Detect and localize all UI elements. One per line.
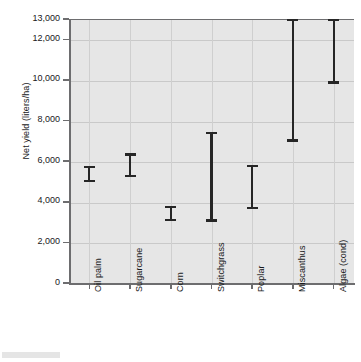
range-cap-upper [287, 19, 298, 21]
y-axis-title: Net yield (liters/ha) [21, 51, 31, 191]
range-cap-upper [125, 153, 136, 155]
y-tick-mark [63, 160, 69, 162]
y-tick-label: 0 [55, 277, 60, 287]
x-tick-label-oil-palm: Oil palm [93, 258, 103, 292]
y-axis-line [69, 19, 71, 284]
range-cap-lower [125, 175, 136, 177]
chart-figure: Net yield (liters/ha) 02,0004,0006,0008,… [0, 0, 361, 362]
range-bar-line [129, 153, 131, 177]
x-tick-label-miscanthus: Miscanthus [297, 245, 307, 292]
range-cap-upper [84, 166, 95, 168]
range-bar-line [292, 19, 294, 142]
x-tick-label-algae-cond: Algae (cond) [338, 240, 348, 292]
x-tick-mark [89, 283, 91, 289]
range-cap-lower [84, 180, 95, 182]
range-bar-line [251, 165, 253, 210]
y-tick-label: 10,000 [32, 73, 60, 83]
range-cap-upper [206, 132, 217, 134]
y-tick-label: 2,000 [37, 236, 60, 246]
y-tick-mark [63, 120, 69, 122]
range-cap-lower [247, 207, 258, 209]
y-tick-label: 6,000 [37, 155, 60, 165]
range-bar-line [210, 132, 212, 222]
y-tick-label: 4,000 [37, 195, 60, 205]
y-tick-mark [63, 39, 69, 41]
range-cap-lower [328, 81, 339, 83]
x-tick-mark [211, 283, 213, 289]
scan-artifact [2, 352, 60, 358]
y-tick-label: 12,000 [32, 33, 60, 43]
y-tick-mark [63, 282, 69, 284]
range-cap-lower [206, 219, 217, 221]
y-tick-label: 13,000 [32, 13, 60, 23]
x-tick-label-sugarcane: Sugarcane [134, 248, 144, 292]
range-cap-upper [328, 19, 339, 21]
x-tick-label-switchgrass: Switchgrass [216, 242, 226, 292]
gridline-vertical [130, 20, 131, 283]
x-tick-mark [129, 283, 131, 289]
x-tick-label-poplar: Poplar [256, 265, 266, 292]
x-tick-mark [333, 283, 335, 289]
range-cap-lower [287, 139, 298, 141]
range-cap-lower [165, 219, 176, 221]
y-tick-mark [63, 18, 69, 20]
x-tick-mark [251, 283, 253, 289]
x-tick-label-corn: Corn [175, 272, 185, 292]
range-cap-upper [247, 165, 258, 167]
y-tick-mark [63, 201, 69, 203]
gridline-vertical [171, 20, 172, 283]
y-tick-label: 8,000 [37, 114, 60, 124]
gridline-vertical [252, 20, 253, 283]
x-tick-mark [170, 283, 172, 289]
x-tick-mark [292, 283, 294, 289]
range-bar-line [333, 19, 335, 84]
y-tick-mark [63, 242, 69, 244]
y-tick-mark [63, 79, 69, 81]
range-cap-upper [165, 206, 176, 208]
gridline-vertical [89, 20, 90, 283]
